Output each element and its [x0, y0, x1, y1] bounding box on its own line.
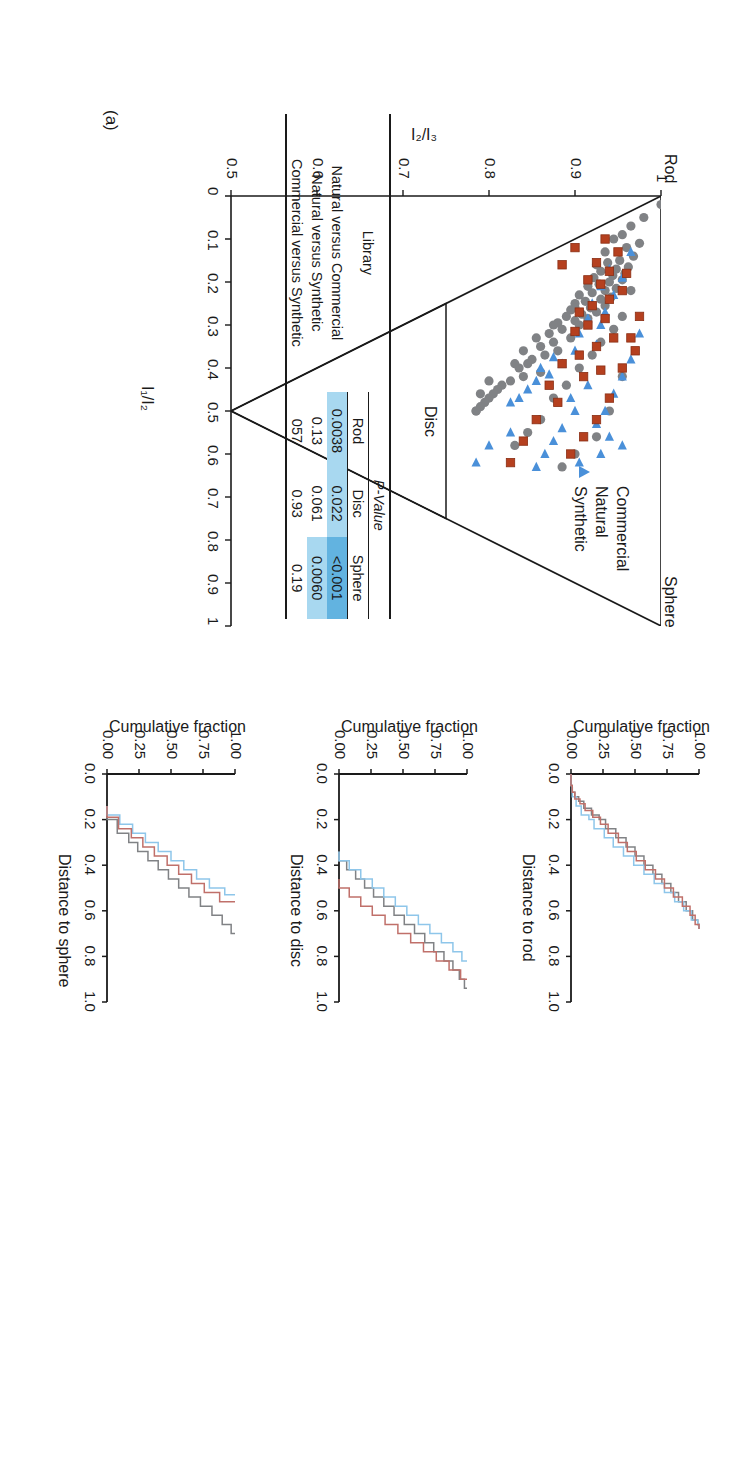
cell-cvs-disc: 0.93 — [286, 470, 307, 537]
cdf-x-tick: 0.6 — [546, 899, 563, 920]
cdf-disc-x-title: Distance to disc — [287, 854, 305, 967]
cdf-y-tick: 0.50 — [164, 730, 181, 759]
cdf-y-tick: 1.00 — [692, 730, 709, 759]
p-value-table-panel: Library P-Value Rod Disc Sphere Natural … — [285, 114, 391, 634]
cdf-x-tick: 0.8 — [82, 945, 99, 966]
cdf-x-tick: 1.0 — [82, 991, 99, 1012]
scatter-y-tick: 0.8 — [482, 158, 499, 179]
figure-root: Rod Sphere Disc I₁/I₂ I₂/I₃ (a) Commerci… — [21, 84, 721, 1374]
scatter-y-tick: 0.9 — [568, 158, 585, 179]
scatter-x-tick: 0.4 — [205, 359, 222, 380]
cell-cvs-sphere: 0.19 — [286, 537, 307, 619]
cdf-x-tick: 0.0 — [546, 763, 563, 784]
scatter-x-tick: 0.6 — [205, 445, 222, 466]
cdf-x-tick: 0.0 — [82, 763, 99, 784]
cell-nvc-rod: 0.0038 — [327, 391, 348, 469]
scatter-x-tick: 0.1 — [205, 230, 222, 251]
scatter-y-tick: 0.7 — [396, 158, 413, 179]
cdf-x-tick: 0.0 — [314, 763, 331, 784]
cell-nvc-disc: 0.022 — [327, 470, 348, 537]
col-header-disc: Disc — [348, 470, 369, 537]
cdf-x-tick: 0.2 — [314, 808, 331, 829]
table-row[interactable]: Natural versus Synthetic 0.13 0.061 0.00… — [307, 114, 327, 619]
cell-cvs-rod: 057 — [286, 391, 307, 469]
cdf-sphere-x-title: Distance to sphere — [55, 854, 73, 987]
cdf-rod-x-title: Distance to rod — [519, 854, 537, 962]
cell-nvc-sphere: <0.001 — [327, 537, 348, 619]
scatter-x-tick: 0.7 — [205, 488, 222, 509]
col-header-rod: Rod — [348, 391, 369, 469]
cdf-y-tick: 0.75 — [196, 730, 213, 759]
cdf-x-tick: 0.8 — [314, 945, 331, 966]
cdf-y-tick: 0.75 — [428, 730, 445, 759]
cdf-panel-rod: Distance to rod Cumulative fraction 0.00… — [508, 704, 713, 1034]
cdf-y-tick: 1.00 — [228, 730, 245, 759]
cdf-x-tick: 0.6 — [314, 899, 331, 920]
table-row[interactable]: Natural versus Commercial 0.0038 0.022 <… — [327, 114, 348, 619]
legend-label-natural: Natural — [592, 486, 610, 538]
circle-marker-icon — [616, 466, 629, 479]
scatter-legend: Commercial Natural Synthetic — [568, 466, 631, 571]
cdf-y-tick: 0.50 — [628, 730, 645, 759]
cdf-x-tick: 1.0 — [314, 991, 331, 1012]
scatter-x-tick: 0.5 — [205, 402, 222, 423]
cdf-x-tick: 1.0 — [546, 991, 563, 1012]
scatter-x-tick: 0 — [205, 187, 222, 195]
cdf-y-tick: 0.00 — [100, 730, 117, 759]
sphere-corner-label: Sphere — [661, 576, 679, 628]
scatter-y-axis-title: I₂/I₃ — [411, 126, 437, 144]
cdf-y-tick: 0.25 — [596, 730, 613, 759]
square-marker-icon — [574, 466, 587, 479]
cdf-x-tick: 0.6 — [82, 899, 99, 920]
cell-nvs-sphere: 0.0060 — [307, 537, 327, 619]
legend-item-commercial[interactable]: Commercial — [613, 466, 631, 571]
library-header-cell: Library — [348, 114, 391, 392]
cdf-x-tick: 0.4 — [82, 854, 99, 875]
row-label-commercial-vs-synthetic: Commercial versus Synthetic — [286, 114, 307, 392]
legend-label-commercial: Commercial — [613, 486, 631, 571]
cdf-y-tick: 0.25 — [132, 730, 149, 759]
col-header-sphere: Sphere — [348, 537, 369, 619]
cell-nvs-disc: 0.061 — [307, 470, 327, 537]
cdf-x-tick: 0.4 — [314, 854, 331, 875]
cdf-panel-disc: Distance to disc Cumulative fraction 0.0… — [276, 704, 481, 1034]
cdf-y-tick: 0.25 — [364, 730, 381, 759]
cdf-x-tick: 0.2 — [82, 808, 99, 829]
cdf-y-tick: 1.00 — [460, 730, 477, 759]
cdf-x-tick: 0.8 — [546, 945, 563, 966]
scatter-x-axis-title: I₁/I₂ — [138, 386, 156, 411]
cdf-y-tick: 0.00 — [332, 730, 349, 759]
scatter-x-tick: 1 — [205, 617, 222, 625]
scatter-y-tick: 1 — [654, 174, 671, 182]
cdf-x-tick: 0.2 — [546, 808, 563, 829]
figure-page: Rod Sphere Disc I₁/I₂ I₂/I₃ (a) Commerci… — [0, 0, 742, 1457]
cdf-y-tick: 0.50 — [396, 730, 413, 759]
cdf-panel-sphere: Distance to sphere Cumulative fraction 0… — [44, 704, 249, 1034]
triangle-marker-icon — [595, 466, 608, 479]
cdf-x-tick: 0.4 — [546, 854, 563, 875]
p-value-table: Library P-Value Rod Disc Sphere Natural … — [285, 114, 391, 619]
row-label-natural-vs-synthetic: Natural versus Synthetic — [307, 114, 327, 392]
table-row[interactable]: Commercial versus Synthetic 057 0.93 0.1… — [286, 114, 307, 619]
scatter-x-tick: 0.8 — [205, 531, 222, 552]
row-label-natural-vs-commercial: Natural versus Commercial — [327, 114, 348, 392]
scatter-x-tick: 0.2 — [205, 273, 222, 294]
cdf-y-tick: 0.75 — [660, 730, 677, 759]
legend-item-natural[interactable]: Natural — [592, 466, 610, 571]
legend-label-synthetic: Synthetic — [571, 486, 589, 552]
cell-nvs-rod: 0.13 — [307, 391, 327, 469]
scatter-y-tick: 0.5 — [224, 158, 241, 179]
panel-letter-a: (a) — [101, 110, 121, 131]
cdf-y-tick: 0.00 — [564, 730, 581, 759]
table-group-header-row: Library P-Value — [369, 114, 391, 619]
pvalue-group-header: P-Value — [369, 391, 391, 618]
legend-item-synthetic[interactable]: Synthetic — [571, 466, 589, 571]
scatter-x-tick: 0.9 — [205, 574, 222, 595]
scatter-x-tick: 0.3 — [205, 316, 222, 337]
